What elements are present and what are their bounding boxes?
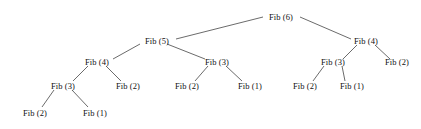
tree-node-root: Fib (6) (269, 12, 293, 22)
tree-node: Fib (2) (385, 57, 409, 67)
tree-node: Fib (3) (51, 81, 75, 91)
tree-node: Fib (2) (293, 81, 317, 91)
tree-node: Fib (1) (83, 108, 107, 118)
tree-node: Fib (1) (340, 81, 364, 91)
tree-node-layer: Fib (6)Fib (5)Fib (4)Fib (4)Fib (3)Fib (… (0, 0, 421, 129)
fibonacci-recursion-tree-diagram: Fib (6)Fib (5)Fib (4)Fib (4)Fib (3)Fib (… (0, 0, 421, 129)
tree-node: Fib (2) (116, 81, 140, 91)
tree-node: Fib (2) (175, 81, 199, 91)
tree-node: Fib (3) (205, 57, 229, 67)
tree-node: Fib (4) (354, 36, 378, 46)
tree-node: Fib (3) (321, 57, 345, 67)
tree-node: Fib (4) (85, 57, 109, 67)
tree-node: Fib (5) (145, 36, 169, 46)
tree-node: Fib (2) (23, 108, 47, 118)
tree-node: Fib (1) (238, 81, 262, 91)
